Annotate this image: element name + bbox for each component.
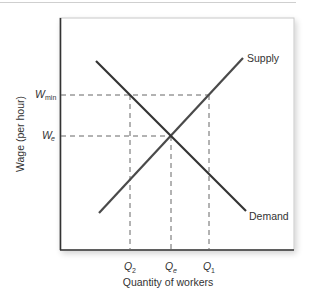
labor-market-chart: Supply Demand W min W e Q 2 Q e Q 1 Quan… [0,0,311,301]
x-axis-title: Quantity of workers [123,276,213,288]
svg-text:Q: Q [165,260,173,272]
svg-text:Q: Q [203,260,211,272]
svg-text:Q: Q [124,260,132,272]
svg-text:1: 1 [211,267,215,274]
svg-text:e: e [51,135,55,142]
supply-label: Supply [247,52,280,64]
wmin-tick-label: W min [35,88,56,101]
svg-text:2: 2 [132,267,136,274]
q2-tick-label: Q 2 [124,260,136,274]
svg-text:min: min [45,94,56,101]
demand-label: Demand [249,210,289,222]
y-axis-title: Wage (per hour) [14,96,26,172]
we-tick-label: W e [42,129,55,142]
svg-text:e: e [173,267,177,274]
q1-tick-label: Q 1 [203,260,215,274]
qe-tick-label: Q e [165,260,177,274]
